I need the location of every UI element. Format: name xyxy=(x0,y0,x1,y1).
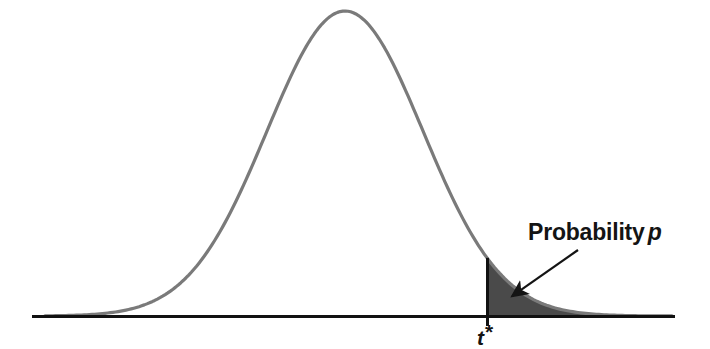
probability-label-text: Probability xyxy=(528,219,645,245)
probability-callout-arrow xyxy=(512,250,578,296)
critical-value-star: * xyxy=(484,320,493,343)
distribution-figure: Probabilityp t* xyxy=(0,0,710,349)
critical-value-label: t* xyxy=(477,320,493,349)
distribution-plot-svg xyxy=(0,0,710,349)
t-distribution-curve xyxy=(45,11,672,316)
critical-value-symbol: t xyxy=(477,326,484,349)
probability-label: Probabilityp xyxy=(528,219,662,246)
probability-symbol: p xyxy=(645,219,662,245)
shaded-tail-region xyxy=(45,11,672,316)
